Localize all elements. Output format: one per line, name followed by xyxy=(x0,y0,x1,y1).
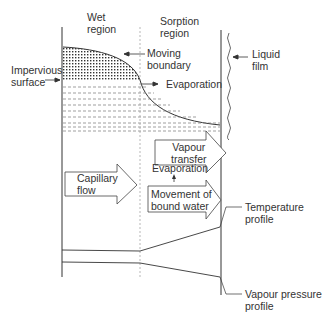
arrow-evaporation-mid xyxy=(172,174,176,182)
temperature-profile-line xyxy=(62,227,220,251)
wet-region-line2: region xyxy=(87,23,116,35)
liquid-film-label: Liquid film xyxy=(252,48,280,72)
vapour-pressure-profile-line xyxy=(62,262,220,277)
vapour-pressure-leader xyxy=(220,277,242,294)
temperature-profile-label: Temperature profile xyxy=(245,201,304,225)
arrow-liquid-film xyxy=(233,55,248,59)
moving-boundary-line2: boundary xyxy=(147,59,191,71)
wet-region-line1: Wet xyxy=(87,11,116,23)
arrow-moving-boundary xyxy=(124,52,145,56)
impervious-line1: Impervious xyxy=(11,64,62,76)
vapour-pressure-line1: Vapour pressure xyxy=(245,288,322,300)
evaporation-mid-label: Evaporation xyxy=(152,162,208,174)
liquid-film-wave xyxy=(228,33,231,140)
liquid-film-line2: film xyxy=(252,60,280,72)
impervious-surface-label: Impervious surface xyxy=(11,64,62,88)
moving-boundary-label: Moving boundary xyxy=(147,47,191,71)
liquid-film-line1: Liquid xyxy=(252,48,280,60)
bound-water-line1: Movement of xyxy=(151,188,212,200)
vapour-transfer-line1: Vapour xyxy=(171,141,207,153)
arrow-evaporation-top xyxy=(141,82,158,86)
vapour-pressure-profile-label: Vapour pressure profile xyxy=(245,288,322,312)
capillary-line2: flow xyxy=(77,184,118,196)
wet-region-label: Wet region xyxy=(87,11,116,35)
bound-water-line2: bound water xyxy=(151,200,212,212)
evaporation-top-label: Evaporation xyxy=(166,78,222,90)
temperature-line1: Temperature xyxy=(245,201,304,213)
movement-bound-water-label: Movement of bound water xyxy=(151,188,212,212)
capillary-flow-label: Capillary flow xyxy=(77,172,118,196)
impervious-line2: surface xyxy=(11,76,62,88)
temperature-line2: profile xyxy=(245,213,304,225)
capillary-line1: Capillary xyxy=(77,172,118,184)
sorption-region-label: Sorption region xyxy=(160,15,199,39)
sorption-dashed-lines xyxy=(63,87,220,131)
vapour-pressure-line2: profile xyxy=(245,300,322,312)
temperature-leader xyxy=(220,207,242,227)
moving-boundary-line1: Moving xyxy=(147,47,191,59)
sorption-region-line1: Sorption xyxy=(160,15,199,27)
sorption-region-line2: region xyxy=(160,27,199,39)
